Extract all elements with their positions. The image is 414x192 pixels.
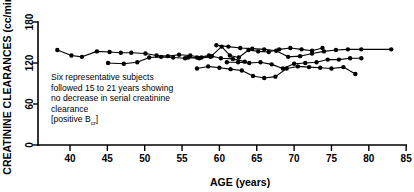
data-point [219, 56, 223, 60]
data-point [296, 64, 300, 68]
x-tick-label-85: 85 [401, 153, 413, 164]
data-point [250, 46, 254, 50]
annotation-line-2: followed 15 to 21 years showing [51, 83, 174, 93]
y-axis-title: CREATININE CLEARANCES (cc/min) [1, 0, 13, 175]
data-point [298, 54, 302, 58]
y-tick-label-180: 180 [24, 13, 35, 30]
annotation-line-3: no decrease in serial creatinine [51, 93, 170, 103]
data-point [225, 60, 229, 64]
data-point [284, 66, 288, 70]
data-point [119, 51, 123, 55]
x-axis-title: AGE (years) [210, 176, 270, 188]
data-point [256, 49, 260, 53]
annotation-bcr-prefix: [positive B [51, 114, 91, 124]
data-point [95, 49, 99, 53]
x-tick-label-60: 60 [214, 153, 226, 164]
data-point [359, 56, 363, 60]
data-point [353, 72, 357, 76]
data-point [286, 55, 290, 59]
series-line-subject-2 [108, 55, 245, 63]
data-point [147, 55, 151, 59]
data-point [231, 57, 235, 61]
data-point [106, 61, 110, 65]
data-point [341, 65, 345, 69]
data-point [55, 48, 59, 52]
y-tick-label-0: 0 [24, 142, 35, 148]
data-point [247, 61, 251, 65]
chart-figure: 06012018040455055606570758085 AGE (years… [0, 0, 414, 192]
annotation-bcr-suffix: ] [96, 114, 98, 124]
data-point [359, 47, 363, 51]
x-tick-label-55: 55 [176, 153, 188, 164]
data-point [251, 74, 255, 78]
data-point [122, 61, 126, 65]
data-point [389, 47, 393, 51]
data-point [273, 74, 277, 78]
data-point [334, 48, 338, 52]
series-subject-6 [195, 64, 358, 80]
chart-annotation: Six representative subjectsfollowed 15 t… [51, 72, 174, 126]
data-point [262, 47, 266, 51]
data-point [326, 57, 330, 61]
data-point [135, 60, 139, 64]
data-point [240, 68, 244, 72]
data-point [206, 64, 210, 68]
creatinine-clearance-line-chart: 06012018040455055606570758085 AGE (years… [0, 0, 414, 192]
data-point [307, 65, 311, 69]
data-point [226, 44, 230, 48]
x-tick-label-50: 50 [139, 153, 151, 164]
data-point [197, 56, 201, 60]
data-point [69, 53, 73, 57]
data-point [228, 67, 232, 71]
series-subject-4 [214, 43, 393, 59]
x-tick-label-45: 45 [102, 153, 114, 164]
data-point [258, 60, 262, 64]
data-point [288, 46, 292, 50]
data-point [269, 62, 273, 66]
data-point [177, 53, 181, 57]
data-point [322, 49, 326, 53]
data-point [274, 49, 278, 53]
data-point [143, 51, 147, 55]
data-point [262, 76, 266, 80]
data-point [337, 57, 341, 61]
data-point [129, 51, 133, 55]
y-tick-label-60: 60 [24, 98, 35, 110]
data-point [80, 55, 84, 59]
data-point [303, 61, 307, 65]
data-point [292, 61, 296, 65]
data-point [214, 43, 218, 47]
x-tick-label-40: 40 [64, 153, 76, 164]
series-subject-3 [186, 44, 325, 60]
data-point [329, 66, 333, 70]
data-point [217, 66, 221, 70]
annotation-line-5: [positive Bcr] [51, 114, 98, 125]
data-point [159, 55, 163, 59]
x-tick-label-75: 75 [326, 153, 338, 164]
data-point [171, 55, 175, 59]
data-point [314, 60, 318, 64]
annotation-line-4: clearance [51, 104, 88, 114]
data-point [238, 46, 242, 50]
data-point [346, 47, 350, 51]
data-point [219, 44, 223, 48]
data-point [318, 66, 322, 70]
annotation-line-1: Six representative subjects [51, 72, 154, 82]
x-tick-label-65: 65 [251, 153, 263, 164]
data-point [237, 55, 241, 59]
x-tick-label-80: 80 [363, 153, 375, 164]
data-point [299, 47, 303, 51]
data-point [228, 53, 232, 57]
data-point [236, 60, 240, 64]
y-tick-label-120: 120 [24, 54, 35, 71]
data-point [186, 55, 190, 59]
data-point [310, 51, 314, 55]
data-point [208, 55, 212, 59]
x-tick-label-70: 70 [289, 153, 301, 164]
data-point [348, 56, 352, 60]
data-point [107, 50, 111, 54]
data-point [195, 66, 199, 70]
